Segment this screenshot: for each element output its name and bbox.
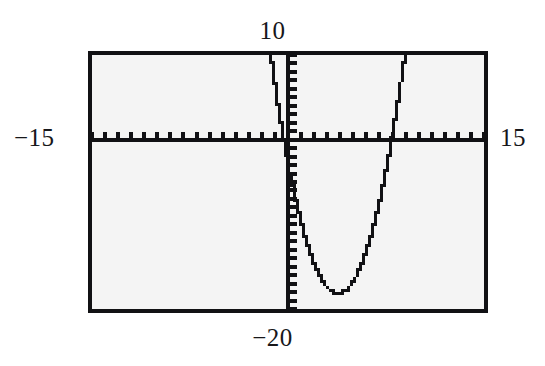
calculator-screenshot: 10 −15 15 −20 xyxy=(0,0,545,366)
parabola-plot-canvas xyxy=(92,55,484,309)
axis-label-ymin: −20 xyxy=(0,325,545,350)
axis-label-ymax: 10 xyxy=(0,18,545,43)
axis-label-xmin: −15 xyxy=(14,125,55,150)
axis-label-xmax: 15 xyxy=(500,125,526,150)
calculator-screen-frame xyxy=(88,51,488,313)
